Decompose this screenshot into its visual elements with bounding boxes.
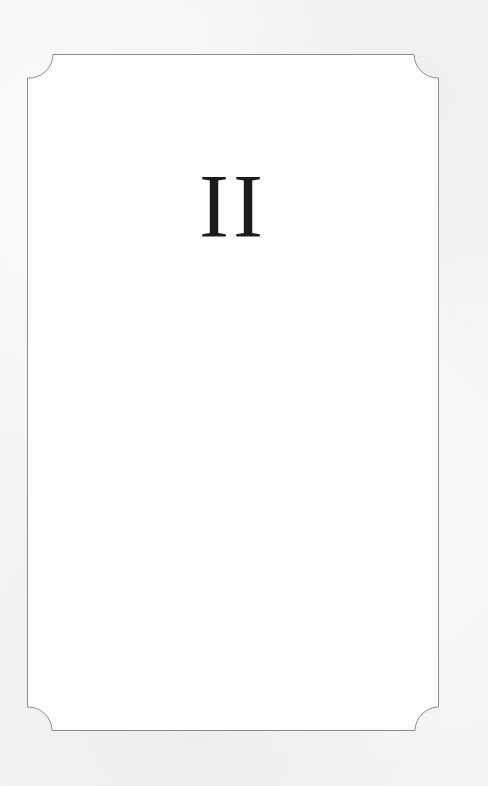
- frame-border: [28, 55, 439, 731]
- chapter-number: II: [0, 157, 466, 257]
- decorative-page-frame: [0, 0, 488, 786]
- book-page: II: [0, 0, 488, 786]
